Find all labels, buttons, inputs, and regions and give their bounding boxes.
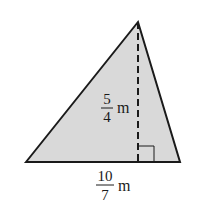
- base-numerator: 10: [98, 168, 113, 184]
- base-denominator: 7: [101, 187, 109, 203]
- height-denominator: 4: [103, 109, 111, 125]
- triangle-diagram: 5 4 m 10 7 m: [0, 0, 204, 205]
- height-numerator: 5: [103, 91, 111, 107]
- base-label: 10 7 m: [96, 168, 131, 203]
- height-unit: m: [117, 99, 130, 116]
- base-unit: m: [118, 177, 131, 194]
